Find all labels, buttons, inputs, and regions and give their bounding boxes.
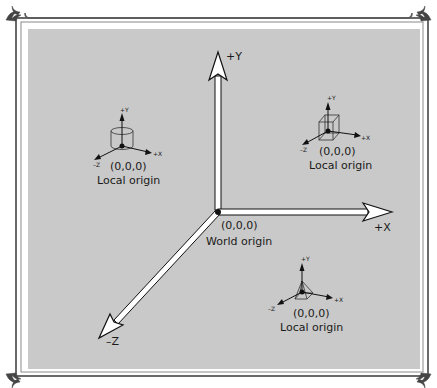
diagram-panel [28, 29, 420, 369]
local-origin-caption: Local origin [309, 159, 372, 172]
world-origin-caption: World origin [206, 235, 272, 248]
local-x-label: +X [361, 134, 370, 141]
coordinate-systems-diagram: +Y +X –Z (0,0,0) World origin +Y +X –Z (… [0, 0, 437, 388]
local-x-label: +X [153, 150, 162, 157]
world-y-label: +Y [226, 50, 242, 63]
world-z-label: –Z [106, 335, 120, 348]
world-origin-point [215, 209, 221, 215]
local-z-label: –Z [300, 146, 307, 153]
local-origin-caption: Local origin [97, 174, 160, 187]
local-z-label: –Z [93, 161, 100, 168]
world-x-label: +X [374, 221, 391, 234]
world-origin-coords: (0,0,0) [221, 219, 258, 232]
local-origin-coords: (0,0,0) [110, 160, 147, 173]
local-y-label: +Y [120, 106, 129, 113]
local-origin-caption: Local origin [280, 321, 343, 334]
local-x-label: +X [334, 296, 343, 303]
local-origin-coords: (0,0,0) [319, 145, 356, 158]
local-y-label: +Y [327, 94, 336, 101]
local-z-label: –Z [268, 305, 275, 312]
local-origin-coords: (0,0,0) [293, 307, 330, 320]
local-y-label: +Y [301, 255, 310, 262]
